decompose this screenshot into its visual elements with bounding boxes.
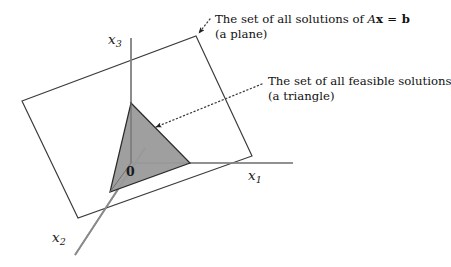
x1-axis-label-base: x — [248, 167, 256, 183]
plane-callout-matrix-a: A — [368, 12, 376, 26]
plane-callout-prefix: The set of all solutions of — [215, 12, 368, 26]
plane-callout-line2: (a plane) — [215, 27, 410, 42]
plane-callout-vector-b: b — [402, 12, 410, 26]
figure-container: x3 x1 x2 0 The set of all solutions of A… — [0, 0, 451, 267]
triangle-callout-line1: The set of all feasible solutions — [268, 74, 451, 88]
x1-axis-label-subscript: 1 — [256, 174, 262, 185]
origin-label: 0 — [126, 164, 135, 180]
x3-axis-label: x3 — [108, 31, 122, 48]
x2-axis-label: x2 — [52, 229, 66, 246]
x3-axis-label-subscript: 3 — [116, 38, 122, 49]
plane-callout-line1: The set of all solutions of Ax = b — [215, 12, 410, 26]
plane-callout-text: The set of all solutions of Ax = b (a pl… — [215, 12, 410, 42]
x1-axis-label: x1 — [248, 167, 262, 184]
plane-callout-equals: = — [383, 12, 402, 26]
plane-callout-leader — [199, 19, 210, 33]
plane-callout-vector-x: x — [376, 12, 383, 26]
x3-axis-label-base: x — [108, 31, 116, 47]
triangle-callout-text: The set of all feasible solutions (a tri… — [268, 74, 451, 104]
triangle-callout-line2: (a triangle) — [268, 89, 451, 104]
x2-axis-label-base: x — [52, 229, 60, 245]
x2-axis-label-subscript: 2 — [60, 236, 66, 247]
